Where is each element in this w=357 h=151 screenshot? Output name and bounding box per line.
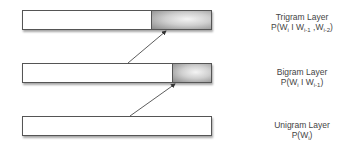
arrow-unigram-to-bigram (130, 84, 175, 116)
trigram-label: Trigram Layer P(Wi I Wi-1 ,Wi-2) (252, 12, 352, 32)
unigram-title: Unigram Layer (252, 120, 352, 130)
arrow-bigram-to-trigram (128, 31, 166, 63)
bigram-title: Bigram Layer (252, 67, 352, 77)
trigram-formula: P(Wi I Wi-1 ,Wi-2) (252, 22, 352, 32)
bigram-formula: P(Wi I Wi-1) (252, 77, 352, 87)
unigram-label: Unigram Layer P(Wi) (252, 120, 352, 140)
bigram-label: Bigram Layer P(Wi I Wi-1) (252, 67, 352, 87)
trigram-title: Trigram Layer (252, 12, 352, 22)
unigram-formula: P(Wi) (252, 130, 352, 140)
